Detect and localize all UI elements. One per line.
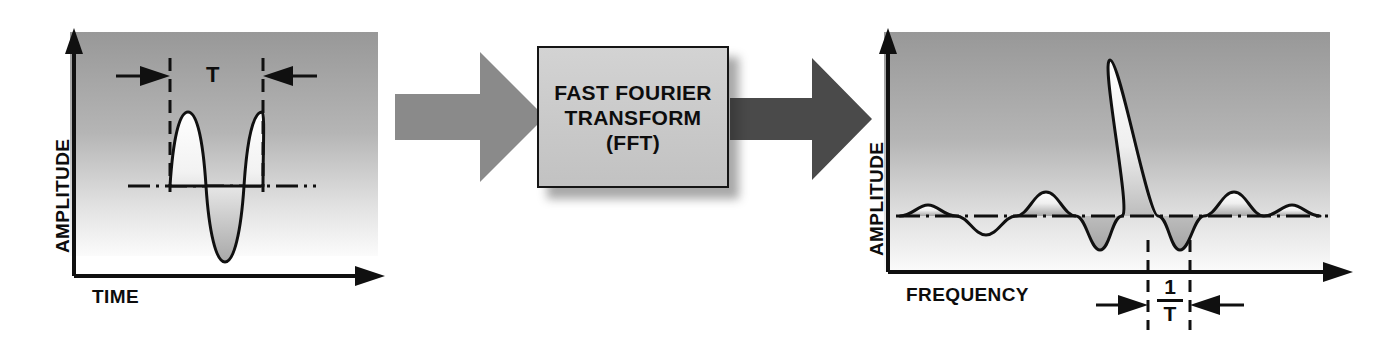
fft-box-line-3: (FFT) xyxy=(606,130,660,155)
left-x-axis xyxy=(74,266,385,286)
reciprocal-period-fraction: 1 T xyxy=(1156,277,1184,324)
input-arrow xyxy=(395,52,545,182)
fft-diagram: FAST FOURIER TRANSFORM (FFT) AMPLITUDE T… xyxy=(0,0,1382,343)
fft-box-line-1: FAST FOURIER xyxy=(554,80,712,105)
fraction-denominator: T xyxy=(1156,304,1184,324)
right-y-axis-label: AMPLITUDE xyxy=(866,142,888,256)
output-arrow xyxy=(730,58,872,180)
fft-process-box[interactable]: FAST FOURIER TRANSFORM (FFT) xyxy=(537,46,729,188)
right-dimension-arrow-left xyxy=(1190,295,1244,315)
right-dimension-arrow-right xyxy=(1096,295,1148,315)
left-y-axis-label: AMPLITUDE xyxy=(52,139,74,253)
fft-box-line-2: TRANSFORM xyxy=(565,105,702,130)
left-x-axis-label: TIME xyxy=(92,286,139,308)
right-x-axis-label: FREQUENCY xyxy=(906,284,1029,306)
fraction-numerator: 1 xyxy=(1156,277,1184,297)
pulse-duration-label: T xyxy=(206,62,220,88)
